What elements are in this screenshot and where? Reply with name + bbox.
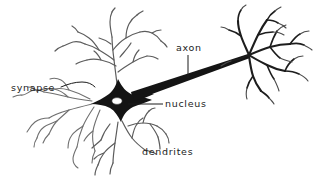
- label-axon: axon: [176, 43, 202, 53]
- label-nucleus: nucleus: [165, 99, 207, 109]
- label-dendrites: dendrites: [142, 147, 193, 157]
- nucleus-oval: [112, 98, 122, 105]
- label-synapse: synapse: [11, 83, 55, 93]
- neuron-diagram-page: synapse axon nucleus dendrites: [0, 0, 332, 180]
